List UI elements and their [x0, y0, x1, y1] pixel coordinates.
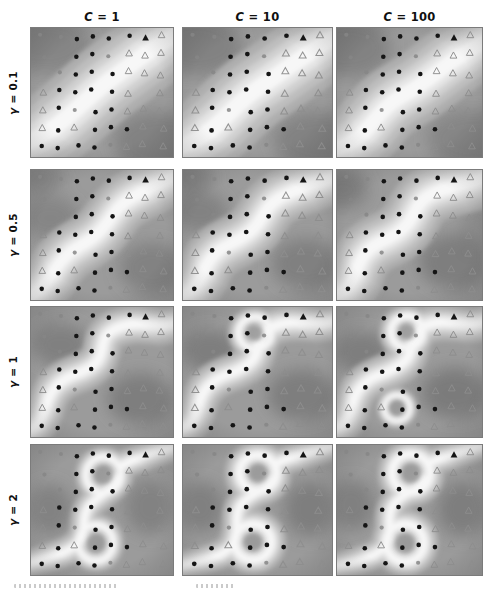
row-label-gamma-1: γ = 1 [7, 356, 19, 388]
panel-gamma-0.5_C-1 [31, 170, 173, 300]
row-label-gamma-2: γ = 2 [7, 494, 19, 526]
panel-gamma-1_C-100 [337, 307, 482, 437]
panel-gamma-1_C-10 [183, 307, 332, 437]
col-header-c100: C = 100 [383, 10, 435, 24]
row-label-gamma-0.5: γ = 0.5 [7, 213, 19, 257]
panel-gamma-0.5_C-100 [337, 170, 482, 300]
caption-fragment [14, 584, 118, 588]
panel-gamma-0.1_C-1 [31, 28, 173, 157]
caption-fragment [196, 584, 234, 588]
col-header-c10: C = 10 [236, 10, 280, 24]
panel-gamma-1_C-1 [31, 307, 173, 437]
panel-gamma-0.1_C-10 [183, 28, 332, 157]
panel-gamma-2_C-100 [337, 445, 482, 575]
panel-gamma-0.5_C-10 [183, 170, 332, 300]
panel-gamma-0.1_C-100 [337, 28, 482, 157]
panel-gamma-2_C-1 [31, 445, 173, 575]
figure-page: C = 1 C = 10 C = 100 γ = 0.1 γ = 0.5 γ =… [0, 0, 486, 591]
col-header-c1: C = 1 [84, 10, 120, 24]
row-label-gamma-0.1: γ = 0.1 [7, 71, 19, 115]
panel-gamma-2_C-10 [183, 445, 332, 575]
